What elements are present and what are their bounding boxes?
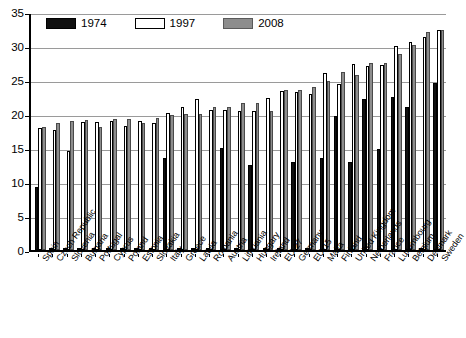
- x-axis-tick-mark: [152, 254, 153, 257]
- x-axis-tick-mark: [195, 254, 196, 257]
- bar-group: [33, 14, 47, 250]
- y-axis-tick-label: 0: [0, 246, 24, 258]
- x-axis-tick-mark: [394, 254, 395, 257]
- bar-group: [133, 14, 147, 250]
- y-axis-tick-mark: [25, 252, 29, 253]
- bar: [441, 30, 445, 250]
- legend-item-1974: 1974: [46, 17, 135, 29]
- x-axis-tick-mark: [266, 254, 267, 257]
- y-axis-tick-label: 5: [0, 212, 24, 224]
- x-axis-tick-mark: [67, 254, 68, 257]
- bar: [412, 45, 416, 250]
- x-axis-tick-mark: [423, 254, 424, 257]
- bar: [341, 72, 345, 250]
- bar-group: [175, 14, 189, 250]
- y-axis-tick-label: 10: [0, 178, 24, 190]
- y-axis-tick-label: 15: [0, 144, 24, 156]
- bar-group: [190, 14, 204, 250]
- bar-group: [275, 14, 289, 250]
- legend-label-1997: 1997: [170, 17, 196, 29]
- bar-group: [403, 14, 417, 250]
- bar-group: [232, 14, 246, 250]
- x-axis-tick-mark: [38, 254, 39, 257]
- bar-group: [104, 14, 118, 250]
- bar: [56, 123, 60, 250]
- bar-group: [346, 14, 360, 250]
- bar: [42, 127, 46, 250]
- x-axis-tick-mark: [366, 254, 367, 257]
- bar-group: [47, 14, 61, 250]
- bar-group: [332, 14, 346, 250]
- bar-group: [289, 14, 303, 250]
- bar-group: [61, 14, 75, 250]
- x-axis-labels: SpainCzech RepublicSloveniaBulgariaPortu…: [29, 254, 446, 338]
- y-axis-tick-label: 30: [0, 42, 24, 54]
- x-axis-tick-mark: [280, 254, 281, 257]
- x-axis-tick-mark: [181, 254, 182, 257]
- legend-label-1974: 1974: [81, 17, 107, 29]
- bar: [127, 119, 131, 250]
- legend-item-2008: 2008: [223, 17, 284, 29]
- bar-group: [118, 14, 132, 250]
- y-axis-tick-label: 20: [0, 110, 24, 122]
- x-axis-tick-mark: [337, 254, 338, 257]
- bar: [312, 87, 316, 250]
- bar: [355, 75, 359, 250]
- bar-group: [361, 14, 375, 250]
- x-axis-tick-mark: [437, 254, 438, 257]
- x-axis-tick-mark: [223, 254, 224, 257]
- bar: [156, 118, 160, 250]
- legend-item-1997: 1997: [135, 17, 224, 29]
- bar-group: [247, 14, 261, 250]
- x-axis-tick-mark: [309, 254, 310, 257]
- x-axis-tick-mark: [323, 254, 324, 257]
- bar: [284, 90, 288, 250]
- bar: [426, 32, 430, 250]
- bar: [142, 123, 146, 250]
- x-axis-tick-mark: [238, 254, 239, 257]
- x-axis-tick-mark: [252, 254, 253, 257]
- y-axis-tick-label: 35: [0, 8, 24, 20]
- bar-group: [318, 14, 332, 250]
- bar-group: [161, 14, 175, 250]
- legend-label-2008: 2008: [258, 17, 284, 29]
- bar: [327, 81, 331, 250]
- bar-group: [218, 14, 232, 250]
- x-axis-tick-mark: [124, 254, 125, 257]
- bar: [213, 107, 217, 250]
- x-axis-tick-mark: [95, 254, 96, 257]
- bar-group: [204, 14, 218, 250]
- bar: [184, 114, 188, 250]
- legend-swatch-icon-1997: [135, 18, 165, 29]
- bar-group: [432, 14, 446, 250]
- x-axis-tick-mark: [209, 254, 210, 257]
- bar: [298, 90, 302, 250]
- bar: [241, 103, 245, 250]
- y-axis-tick-label: 25: [0, 76, 24, 88]
- bar-group: [147, 14, 161, 250]
- bar: [199, 114, 203, 250]
- x-axis-tick-mark: [81, 254, 82, 257]
- bar: [256, 103, 260, 250]
- legend-swatch-icon-1974: [46, 18, 76, 29]
- bar-group: [418, 14, 432, 250]
- bar-group: [261, 14, 275, 250]
- x-axis-tick-mark: [138, 254, 139, 257]
- bar: [369, 63, 373, 250]
- chart-legend: 1974 1997 2008: [46, 17, 284, 29]
- legend-swatch-icon-2008: [223, 18, 253, 29]
- bar-group: [304, 14, 318, 250]
- x-axis-tick-mark: [380, 254, 381, 257]
